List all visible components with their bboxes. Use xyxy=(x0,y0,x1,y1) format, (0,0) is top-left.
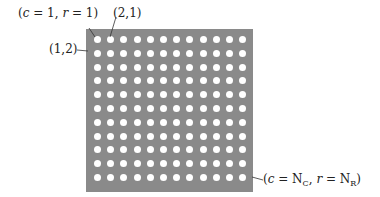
label-second-row: (1,2) xyxy=(49,42,77,56)
leader-lines xyxy=(0,0,380,197)
label-last-pixel: (c = NC, r = NR) xyxy=(263,172,361,188)
label-first-pixel: (c = 1, r = 1) xyxy=(18,6,98,20)
label-second-column: (2,1) xyxy=(113,6,141,20)
